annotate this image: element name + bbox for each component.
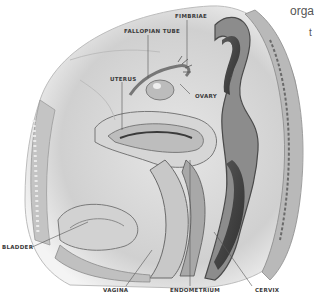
label-uterus: UTERUS	[110, 76, 136, 82]
text-fragment-organ: organ	[290, 4, 314, 18]
label-vagina: VAGINA	[103, 287, 128, 293]
anatomy-figure: FIMBRIAE FALLOPIAN TUBE UTERUS OVARY BLA…	[0, 0, 314, 304]
label-bladder: BLADDER	[2, 244, 33, 250]
text-fragment-edge: t	[309, 27, 312, 38]
label-ovary: OVARY	[195, 93, 217, 99]
label-fimbriae: FIMBRIAE	[175, 13, 207, 19]
label-fallopian-tube: FALLOPIAN TUBE	[124, 28, 180, 34]
illustration-drawing	[0, 0, 314, 304]
label-endometrium: ENDOMETRIUM	[170, 287, 220, 293]
label-cervix: CERVIX	[255, 287, 279, 293]
